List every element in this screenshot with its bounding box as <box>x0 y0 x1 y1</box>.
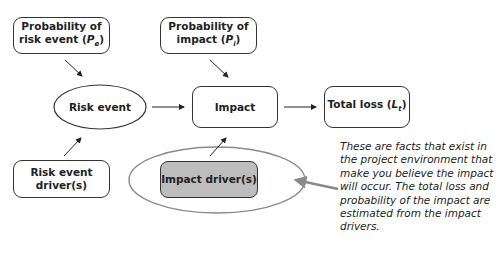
total-loss-prefix: Total loss ( <box>328 98 392 110</box>
arrow-risk-drivers-to-risk-event <box>64 138 81 156</box>
total-loss-suffix: ) <box>402 98 407 110</box>
node-risk-event-drivers: Risk event driver(s) <box>13 160 110 198</box>
node-probability-of-risk-event: Probability of risk event (Pe) <box>13 17 110 54</box>
annotation-note: These are facts that exist in the projec… <box>340 140 498 234</box>
prob-risk-prefix: risk event ( <box>19 33 87 45</box>
prob-impact-line1: Probability of <box>168 20 248 33</box>
prob-impact-suffix: ) <box>236 33 241 45</box>
impact-label: Impact <box>215 101 256 114</box>
total-loss-label: Total loss (Lt) <box>328 98 407 116</box>
risk-drivers-line1: Risk event <box>30 166 92 179</box>
prob-risk-line2: risk event (Pe) <box>19 33 104 51</box>
node-impact-drivers: Impact driver(s) <box>160 161 258 198</box>
risk-drivers-line2: driver(s) <box>30 179 92 192</box>
prob-impact-prefix: impact ( <box>177 33 226 45</box>
impact-drivers-label: Impact driver(s) <box>161 173 257 186</box>
risk-event-label: Risk event <box>69 101 131 114</box>
arrow-prob-impact-to-impact <box>210 60 228 77</box>
node-impact: Impact <box>192 86 278 128</box>
prob-risk-suffix: ) <box>99 33 104 45</box>
arrow-prob-risk-to-risk-event <box>65 60 82 76</box>
prob-impact-var: P <box>225 33 233 45</box>
node-risk-event: Risk event <box>54 85 146 129</box>
prob-impact-line2: impact (Pi) <box>168 33 248 51</box>
node-total-loss: Total loss (Lt) <box>324 86 410 128</box>
node-probability-of-impact: Probability of impact (Pi) <box>160 17 257 54</box>
prob-risk-line1: Probability of <box>19 20 104 33</box>
